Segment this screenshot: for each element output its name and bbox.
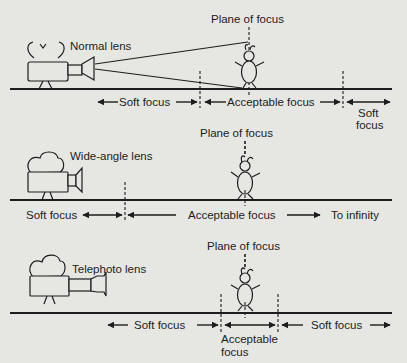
- lens-label: Normal lens: [70, 40, 132, 52]
- zone-near-label: Soft focus: [26, 209, 77, 221]
- zone-far-label: Soft focus: [311, 319, 362, 331]
- zone-middle-label-line2: focus: [221, 346, 249, 358]
- person-figure-icon: [231, 156, 260, 206]
- lens-label: Wide-angle lens: [70, 150, 153, 162]
- zone-middle-label: Acceptable focus: [227, 96, 315, 108]
- zone-far-label: To infinity: [331, 209, 379, 221]
- zone-middle-label-line1: Acceptable: [221, 333, 278, 345]
- plane-of-focus-label: Plane of focus: [200, 127, 273, 139]
- panel-telephoto-lens: Telephoto lens Plane of focus Soft focus…: [10, 240, 392, 358]
- plane-of-focus-label: Plane of focus: [207, 240, 280, 252]
- zone-near-label: Soft focus: [119, 96, 170, 108]
- panel-wide-angle-lens: Wide-angle lens Plane of focus Soft focu…: [10, 127, 392, 221]
- person-figure-icon: [231, 268, 260, 318]
- plane-of-focus-label: Plane of focus: [211, 13, 284, 25]
- zone-near-label: Soft focus: [134, 319, 185, 331]
- person-figure-icon: [235, 45, 264, 88]
- zone-far-label-line1: Soft: [358, 107, 379, 119]
- lens-label: Telephoto lens: [72, 263, 146, 275]
- zone-far-label-line2: focus: [356, 119, 384, 131]
- depth-of-field-diagram: Normal lens Plane of focus Soft focus Ac…: [0, 0, 407, 363]
- zone-middle-label: Acceptable focus: [188, 209, 276, 221]
- view-line-bottom: [95, 69, 242, 88]
- panel-normal-lens: Normal lens Plane of focus Soft focus Ac…: [10, 13, 392, 131]
